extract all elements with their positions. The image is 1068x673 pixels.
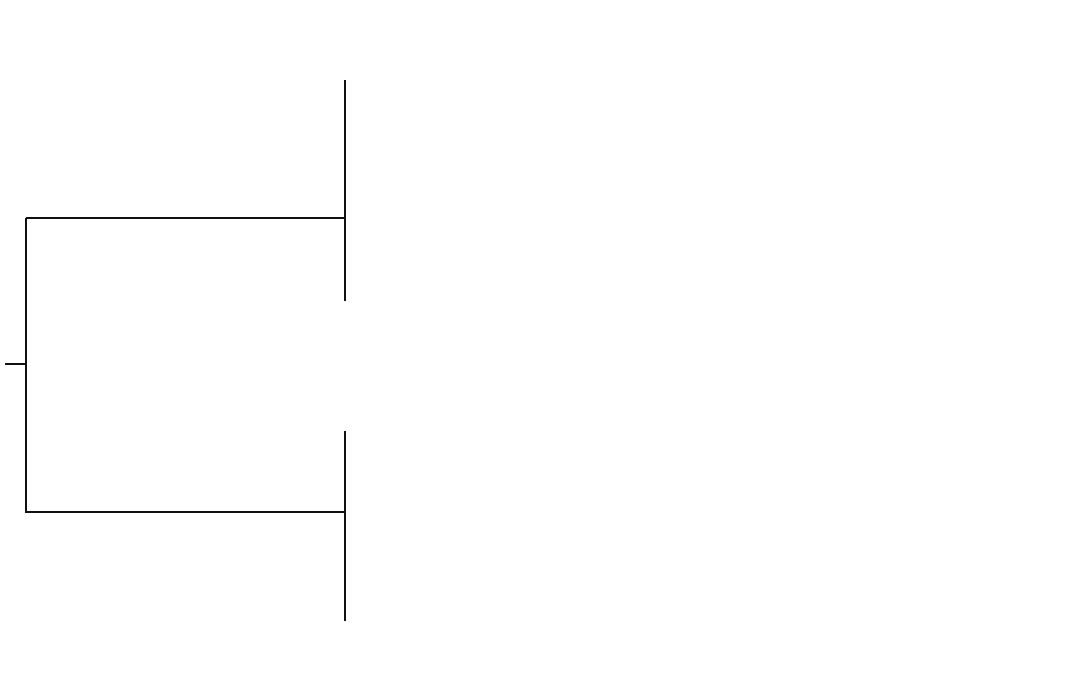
- tree-branches: [0, 0, 1068, 673]
